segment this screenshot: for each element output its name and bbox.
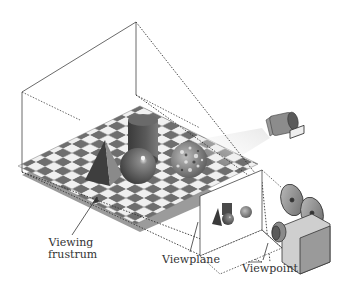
textured-sphere-object xyxy=(171,142,207,178)
sphere-object xyxy=(120,148,156,184)
viewpoint-label: Viewpoint xyxy=(242,263,298,275)
viewplane-label: Viewplane xyxy=(162,254,220,266)
viewing-frustum-diagram: Viewing frustrum Viewplane Viewpoint xyxy=(0,0,348,286)
movie-camera-icon xyxy=(272,125,330,274)
viewing-frustrum-label: Viewing frustrum xyxy=(48,237,94,261)
viewing-frustrum-label-line2: frustrum xyxy=(48,249,94,261)
